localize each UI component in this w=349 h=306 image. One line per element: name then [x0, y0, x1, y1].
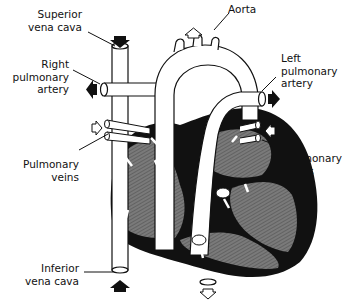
ivc-inflow-arrow-icon [110, 280, 130, 292]
label-line: Aorta [228, 3, 256, 16]
vena-cava-tube [112, 46, 128, 270]
right-pulmonary-artery-opening [101, 83, 108, 96]
label-line: vena cava [22, 21, 82, 34]
aortic-valve [216, 188, 230, 198]
label-pulmonary-veins-right: Pulmonary veins [286, 152, 342, 177]
label-line: vena cava [17, 275, 79, 288]
label-line: Pulmonary [286, 152, 342, 165]
label-line: artery [281, 77, 338, 90]
label-line: veins [10, 171, 79, 184]
label-left-pulmonary-artery: Left pulmonary artery [281, 52, 338, 90]
right-pv-inflow-arrow-icon [92, 121, 102, 135]
label-line: artery [5, 83, 69, 96]
right-pa-outflow-arrow-icon [86, 80, 97, 99]
label-aorta: Aorta [228, 3, 256, 16]
pulmonary-valve [192, 235, 206, 245]
left-pa-outflow-arrow-icon [268, 90, 280, 108]
label-line: Left [281, 52, 338, 65]
label-line: Inferior [17, 262, 79, 275]
inferior-vena-cava-opening [112, 267, 128, 273]
left-pulmonary-artery-opening [259, 92, 266, 106]
descending-aorta-opening [200, 279, 216, 285]
label-pulmonary-veins-left: Pulmonary veins [10, 158, 79, 183]
label-line: Right [5, 58, 69, 71]
label-inferior-vena-cava: Inferior vena cava [17, 262, 79, 287]
label-line: pulmonary [281, 65, 338, 78]
label-line: Superior [22, 8, 82, 21]
label-superior-vena-cava: Superior vena cava [22, 8, 82, 33]
label-line: Pulmonary [10, 158, 79, 171]
descending-aorta-arrow-icon [200, 289, 216, 299]
label-line: pulmonary [5, 71, 69, 84]
aorta-outflow-arrow-icon [185, 28, 202, 38]
label-line: veins [286, 165, 342, 178]
label-right-pulmonary-artery: Right pulmonary artery [5, 58, 69, 96]
